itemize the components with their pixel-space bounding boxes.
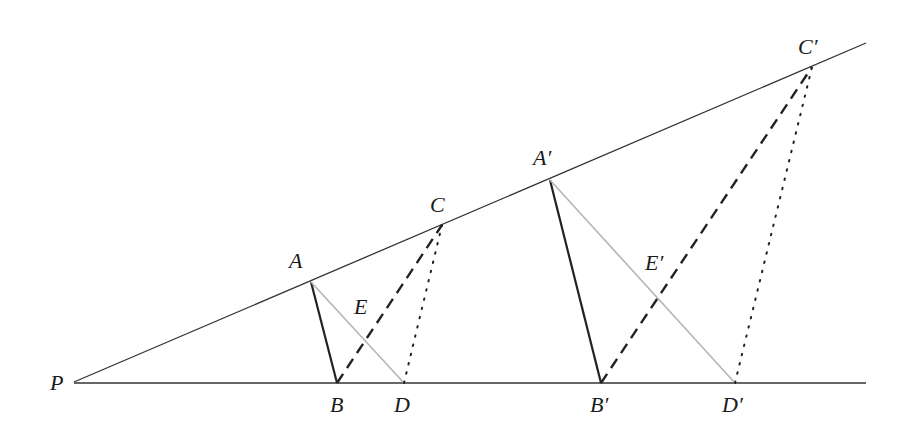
segment-d-primec-prime [735, 67, 812, 383]
point-label-d-prime: D′ [721, 392, 744, 417]
point-label-e: E [353, 294, 368, 319]
segment-dc [404, 225, 442, 383]
point-label-d: D [393, 392, 410, 417]
point-label-c-prime: C′ [798, 34, 819, 59]
point-label-c: C [430, 192, 445, 217]
point-label-b: B [330, 392, 343, 417]
point-label-e-prime: E′ [644, 250, 664, 275]
upper-ray [74, 43, 866, 382]
segment-bc [337, 225, 442, 383]
point-label-p: P [49, 370, 63, 395]
labels-group: PABDCEA′E′B′D′C′ [49, 34, 819, 417]
segment-a-primed-prime [550, 180, 735, 383]
segments-group [74, 43, 866, 383]
geometry-diagram: PABDCEA′E′B′D′C′ [0, 0, 915, 439]
point-label-a: A [287, 248, 303, 273]
point-label-a-prime: A′ [531, 145, 552, 170]
point-label-b-prime: B′ [590, 392, 609, 417]
segment-b-primec-prime [601, 67, 812, 383]
segment-a-primeb-prime [550, 180, 601, 383]
